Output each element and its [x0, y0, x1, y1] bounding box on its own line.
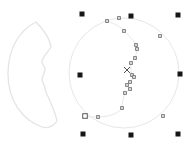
editor-scene: [0, 0, 191, 148]
curve-node[interactable]: [129, 88, 132, 91]
selection-handle-nw[interactable]: [80, 12, 85, 17]
selection-handle-n[interactable]: [129, 14, 134, 19]
moon-with-face-outline[interactable]: [8, 22, 57, 128]
curve-start-node[interactable]: [83, 114, 88, 119]
curve-node[interactable]: [118, 17, 121, 20]
curve-node[interactable]: [124, 92, 127, 95]
curve-node[interactable]: [162, 115, 165, 118]
crescent-face-curve[interactable]: [85, 21, 137, 117]
drawing-canvas[interactable]: [0, 0, 191, 148]
curve-node[interactable]: [97, 116, 100, 119]
selection-handle-e[interactable]: [178, 72, 183, 77]
curve-node[interactable]: [121, 107, 124, 110]
selection-handle-sw[interactable]: [81, 132, 86, 137]
curve-node[interactable]: [106, 20, 109, 23]
curve-node[interactable]: [133, 76, 136, 79]
curve-node[interactable]: [159, 35, 162, 38]
curve-node[interactable]: [135, 44, 138, 47]
selection-handle-s[interactable]: [129, 133, 134, 138]
selection-handle-w[interactable]: [78, 73, 83, 78]
curve-node[interactable]: [136, 48, 139, 51]
curve-node[interactable]: [129, 81, 132, 84]
selection-handle-se[interactable]: [176, 132, 181, 137]
selection-handle-ne[interactable]: [176, 13, 181, 18]
curve-node[interactable]: [130, 62, 133, 65]
curve-node[interactable]: [134, 57, 137, 60]
curve-node[interactable]: [123, 30, 126, 33]
curve-node[interactable]: [126, 84, 129, 87]
